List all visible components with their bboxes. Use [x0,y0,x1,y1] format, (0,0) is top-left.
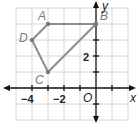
x-axis [3,85,136,91]
point-d-label: D [19,31,28,45]
point-c-marker [46,70,50,74]
x-axis-label: x [129,91,137,105]
coordinate-plane: A B C D −4 −2 2 O x y [0,0,138,124]
x-tick-label-neg2: −2 [53,93,66,105]
y-tick-label-2: 2 [83,51,89,63]
point-a-marker [46,22,50,26]
origin-label: O [83,91,92,105]
point-c-label: C [35,73,44,87]
y-axis-label: y [101,0,109,13]
point-d-marker [30,38,34,42]
x-tick-label-neg4: −4 [21,93,34,105]
point-b-marker [94,22,98,26]
y-axis [93,1,99,123]
point-a-label: A [37,9,46,23]
